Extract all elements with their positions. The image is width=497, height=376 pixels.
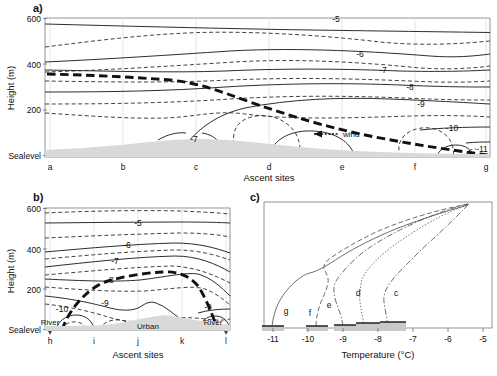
panel-a: a) 600 400 200 Sealevel Height (m) xyxy=(0,0,497,182)
label-minus7-terrain: -7 xyxy=(190,134,198,144)
site-f: f xyxy=(414,162,417,172)
label-minus6: -6 xyxy=(123,240,131,250)
panel-b-ytick-600: 600 xyxy=(27,204,41,214)
contour-minus8 xyxy=(45,84,490,92)
contour-minus5 xyxy=(45,24,490,33)
label-minus9-left: -9 xyxy=(101,298,109,308)
label-minus5: -5 xyxy=(134,218,142,228)
contour-minus6p5 xyxy=(45,61,490,72)
contour-minus11-right xyxy=(466,142,490,143)
panel-b-ytick-200: 200 xyxy=(27,285,41,295)
label-minus10: -10 xyxy=(56,304,69,314)
xtick-minus8: -8 xyxy=(374,334,382,344)
label-minus9-right: -9 xyxy=(204,302,212,312)
xtick-minus7: -7 xyxy=(409,334,417,344)
contour-minus9-right xyxy=(198,309,230,313)
label-minus11: -11 xyxy=(476,144,488,154)
contour-minus5p5 xyxy=(45,32,490,47)
site-j: j xyxy=(136,336,139,346)
site-c: c xyxy=(194,162,199,172)
curve-label-c: c xyxy=(394,288,399,298)
wind-label: wind xyxy=(342,130,359,139)
xtick-minus10: -10 xyxy=(302,334,315,344)
urban-label: Urban xyxy=(137,322,159,331)
contour-minus6 xyxy=(45,50,490,62)
contour-minus9p5 xyxy=(45,304,230,322)
panel-b: b) 600 400 200 Sealevel Height (m) xyxy=(0,186,250,376)
label-minus8: -8 xyxy=(406,82,414,92)
contour-minus9p5 xyxy=(45,113,490,118)
xtick-minus11: -11 xyxy=(267,334,279,344)
xtick-minus5: -5 xyxy=(479,334,487,344)
panel-b-ytick-400: 400 xyxy=(27,245,41,255)
panel-a-ytick-600: 600 xyxy=(27,14,41,24)
site-g: g xyxy=(484,162,489,172)
site-k: k xyxy=(180,336,185,346)
site-i: i xyxy=(93,336,95,346)
panel-b-contours xyxy=(45,211,230,330)
label-minus10: -10 xyxy=(446,123,459,133)
site-b: b xyxy=(121,162,126,172)
river-label-right: River xyxy=(204,318,223,327)
label-minus7: -7 xyxy=(111,256,119,266)
panel-c-surface-markers xyxy=(262,322,406,331)
profile-g xyxy=(272,205,468,326)
contour-minus7p5 xyxy=(45,78,490,82)
panel-b-ytick-sealevel: Sealevel xyxy=(8,325,41,335)
panel-a-contours xyxy=(45,24,490,157)
label-minus8: -8 xyxy=(106,275,114,285)
panel-b-contour-labels: -5 -6 -7 -8 -9 -9 -10 xyxy=(56,218,212,314)
panel-a-ytick-200: 200 xyxy=(27,105,41,115)
panel-b-label: b) xyxy=(33,191,44,203)
panel-c-frame xyxy=(264,202,492,328)
panel-b-xlabel: Ascent sites xyxy=(112,349,163,360)
surface-bar-d xyxy=(356,323,380,331)
label-minus5: -5 xyxy=(332,14,340,24)
label-minus6: -6 xyxy=(356,49,364,59)
label-minus7-upper: -7 xyxy=(379,65,387,75)
xtick-minus6: -6 xyxy=(444,334,452,344)
panel-c: c) g f e d c xyxy=(246,186,497,376)
contour-minus7 xyxy=(45,256,230,272)
surface-bar-e xyxy=(334,325,356,331)
wind-annotation: wind xyxy=(314,130,359,139)
profile-c xyxy=(384,204,469,326)
river-marker-right xyxy=(224,331,228,335)
panel-a-site-labels: a b c d e f g xyxy=(48,162,489,172)
xtick-minus9: -9 xyxy=(339,334,347,344)
panel-c-curve-labels: g f e d c xyxy=(284,288,399,318)
panel-a-ytick-400: 400 xyxy=(27,60,41,70)
curve-label-d: d xyxy=(356,288,361,298)
site-a: a xyxy=(48,162,53,172)
site-e: e xyxy=(340,162,345,172)
panel-c-label: c) xyxy=(250,191,260,203)
curve-label-f: f xyxy=(309,308,312,318)
panel-c-profiles xyxy=(272,204,469,326)
figure-root: a) 600 400 200 Sealevel Height (m) xyxy=(0,0,497,376)
site-d: d xyxy=(267,162,272,172)
panel-a-xlabel: Ascent sites xyxy=(243,172,294,182)
panel-a-label: a) xyxy=(33,2,43,14)
label-minus9: -9 xyxy=(417,99,425,109)
contour-minus7-arcL xyxy=(158,133,186,140)
surface-bar-c xyxy=(380,322,406,331)
river-label-left: River xyxy=(41,318,60,327)
panel-a-gridlines xyxy=(50,18,486,157)
panel-a-ytick-sealevel: Sealevel xyxy=(8,151,41,161)
curve-label-g: g xyxy=(284,306,289,316)
site-h: h xyxy=(48,336,53,346)
panel-b-site-labels: h i j k l xyxy=(48,336,227,346)
site-l: l xyxy=(225,336,227,346)
river-marker-left xyxy=(48,331,52,335)
contour-top-dashed xyxy=(45,211,230,214)
curve-label-e: e xyxy=(327,300,332,310)
panel-a-ylabel: Height (m) xyxy=(5,66,16,110)
contour-minus5p5 xyxy=(45,233,230,238)
panel-c-xlabel: Temperature (°C) xyxy=(342,349,415,360)
panel-a-terrain xyxy=(45,139,490,157)
profile-f xyxy=(316,204,468,326)
panel-b-ylabel: Height (m) xyxy=(5,249,16,293)
